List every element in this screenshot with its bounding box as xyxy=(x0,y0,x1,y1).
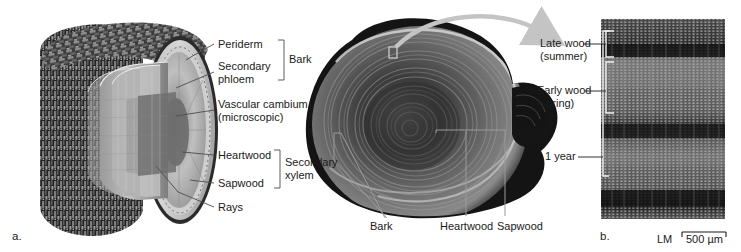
scale-bar-value: 500 µm xyxy=(686,233,723,246)
scale-bar-technique: LM xyxy=(657,233,672,246)
bracket-label-bark: Bark xyxy=(289,53,312,66)
label-bark-middle: Bark xyxy=(370,220,393,233)
label-vascular-cambium: Vascular cambium (microscopic) xyxy=(218,98,308,124)
label-sapwood-a: Sapwood xyxy=(218,177,264,190)
panel-b-illustration xyxy=(601,19,725,219)
panel-b-brackets xyxy=(603,31,614,176)
panel-middle-leaders xyxy=(334,130,506,218)
wood-anatomy-figure: Periderm Secondary phloem Vascular cambi… xyxy=(0,0,741,252)
panel-a-illustration xyxy=(40,23,218,236)
panel-a-leaders xyxy=(156,44,214,207)
label-late-wood: Late wood (summer) xyxy=(540,37,591,63)
label-secondary-phloem: Secondary phloem xyxy=(218,60,271,86)
illustration-layer xyxy=(0,0,741,252)
label-heartwood-a: Heartwood xyxy=(218,149,271,162)
label-sapwood-middle: Sapwood xyxy=(497,220,543,233)
bracket-label-secondary-xylem: Secondary xylem xyxy=(285,156,338,182)
label-periderm: Periderm xyxy=(218,38,263,51)
panel-middle-illustration xyxy=(306,16,558,222)
label-heartwood-middle: Heartwood xyxy=(440,220,493,233)
magnify-arrow-path xyxy=(397,16,538,46)
inset-square-marker xyxy=(389,47,397,58)
panel-letter-b: b. xyxy=(600,230,610,242)
label-one-year: 1 year xyxy=(545,150,576,163)
label-rays: Rays xyxy=(218,201,243,214)
panel-letter-a: a. xyxy=(12,230,22,242)
label-early-wood: Early wood (spring) xyxy=(537,84,591,110)
